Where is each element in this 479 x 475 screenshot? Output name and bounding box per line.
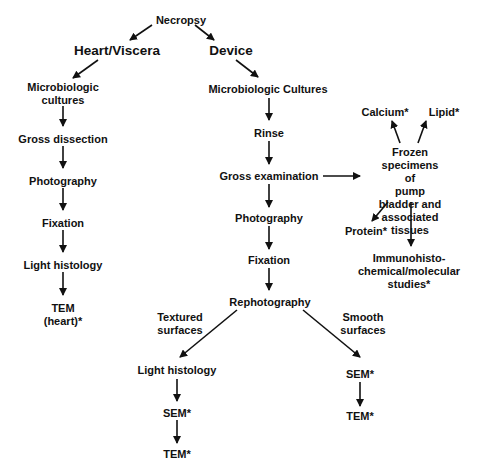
node-frozen-specimens: Frozen specimens of pump bladder and ass… [376, 146, 445, 237]
node-smooth-tem: TEM* [346, 410, 374, 423]
node-smooth-sem: SEM* [346, 368, 374, 381]
node-lipid: Lipid* [429, 106, 460, 119]
node-device-fixation: Fixation [248, 254, 290, 267]
node-protein: Protein* [345, 225, 387, 238]
node-heart-viscera: Heart/Viscera [74, 43, 160, 58]
node-heart-light-histology: Light histology [24, 259, 103, 272]
node-heart-photography: Photography [29, 175, 97, 188]
node-heart-gross-dissection: Gross dissection [18, 133, 107, 146]
arrow-necropsy-device [195, 25, 214, 40]
node-device-rinse: Rinse [254, 127, 284, 140]
node-heart-microbiologic: Microbiologic cultures [27, 81, 99, 107]
arrow-layer [0, 0, 479, 475]
node-device-rephotography: Rephotography [229, 296, 310, 309]
node-device-gross-examination: Gross examination [219, 170, 318, 183]
node-device: Device [209, 43, 253, 58]
arrow-frozen-calcium [392, 121, 400, 143]
node-necropsy: Necropsy [156, 14, 206, 27]
node-textured-light-histology: Light histology [138, 364, 217, 377]
node-textured-sem: SEM* [163, 407, 191, 420]
arrow-frozen-lipid [418, 121, 426, 143]
node-heart-fixation: Fixation [42, 217, 84, 230]
arrow-necropsy-heart [130, 25, 152, 40]
node-textured-tem: TEM* [163, 448, 191, 461]
label-textured-surfaces: Textured surfaces [157, 311, 203, 337]
node-immunohistochemical: Immunohisto- chemical/molecular studies* [358, 252, 460, 291]
arrow-heart-micro [73, 60, 98, 78]
node-calcium: Calcium* [361, 106, 408, 119]
arrow-device-micro [236, 60, 258, 77]
node-heart-tem: TEM (heart)* [44, 302, 83, 328]
label-smooth-surfaces: Smooth surfaces [340, 311, 385, 337]
node-device-photography: Photography [235, 212, 303, 225]
node-device-microbiologic: Microbiologic Cultures [208, 83, 327, 96]
